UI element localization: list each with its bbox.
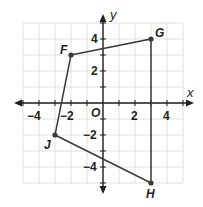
x-tick-label: 4	[163, 109, 170, 123]
x-axis-label: x	[186, 85, 194, 100]
x-axis-left-arrow-icon	[14, 100, 22, 107]
y-axis-label: y	[109, 7, 118, 22]
vertex-point-H	[148, 180, 153, 185]
vertex-point-F	[68, 52, 73, 57]
origin-label: O	[91, 106, 101, 120]
y-tick-label: 4	[91, 32, 98, 46]
vertex-label-G: G	[155, 26, 164, 40]
vertex-label-F: F	[60, 43, 68, 57]
x-tick-label: −2	[60, 109, 74, 123]
x-axis-right-arrow-icon	[186, 100, 194, 107]
x-tick-label: 2	[131, 109, 138, 123]
y-tick-label: −2	[83, 128, 97, 142]
vertex-point-G	[148, 36, 153, 41]
y-axis-down-arrow-icon	[100, 186, 107, 194]
coordinate-plane: x y O −4 −2 2 4 4 2 −2 −4 F G H J	[0, 0, 203, 207]
vertex-point-J	[52, 132, 57, 137]
y-axis-up-arrow-icon	[100, 14, 107, 22]
y-tick-label: 2	[91, 64, 98, 78]
y-tick-label: −4	[83, 160, 97, 174]
vertex-label-J: J	[44, 138, 51, 152]
x-tick-label: −4	[27, 109, 41, 123]
vertex-label-H: H	[146, 187, 155, 201]
